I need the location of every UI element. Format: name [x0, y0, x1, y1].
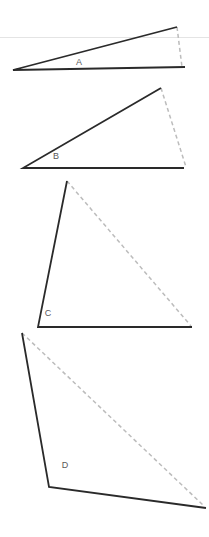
angle-label-d: D [62, 460, 69, 470]
closing-dashed-segment-a [177, 27, 182, 67]
closing-dashed-segment-d [22, 333, 204, 506]
angle-label-b: B [53, 151, 59, 161]
angle-figure-c: C [38, 181, 192, 327]
solid-rays-c [38, 181, 192, 327]
geometry-figure-canvas: A B C D [0, 0, 209, 537]
angle-figure-d: D [22, 333, 206, 508]
angles-diagram-svg: A B C D [0, 0, 209, 537]
angle-label-a: A [76, 57, 82, 67]
angle-label-c: C [45, 308, 52, 318]
angle-figure-b: B [23, 88, 186, 168]
solid-rays-a [13, 27, 185, 70]
closing-dashed-segment-c [67, 181, 191, 326]
angle-figure-a: A [13, 27, 185, 70]
solid-rays-b [23, 88, 184, 168]
closing-dashed-segment-b [161, 88, 186, 167]
